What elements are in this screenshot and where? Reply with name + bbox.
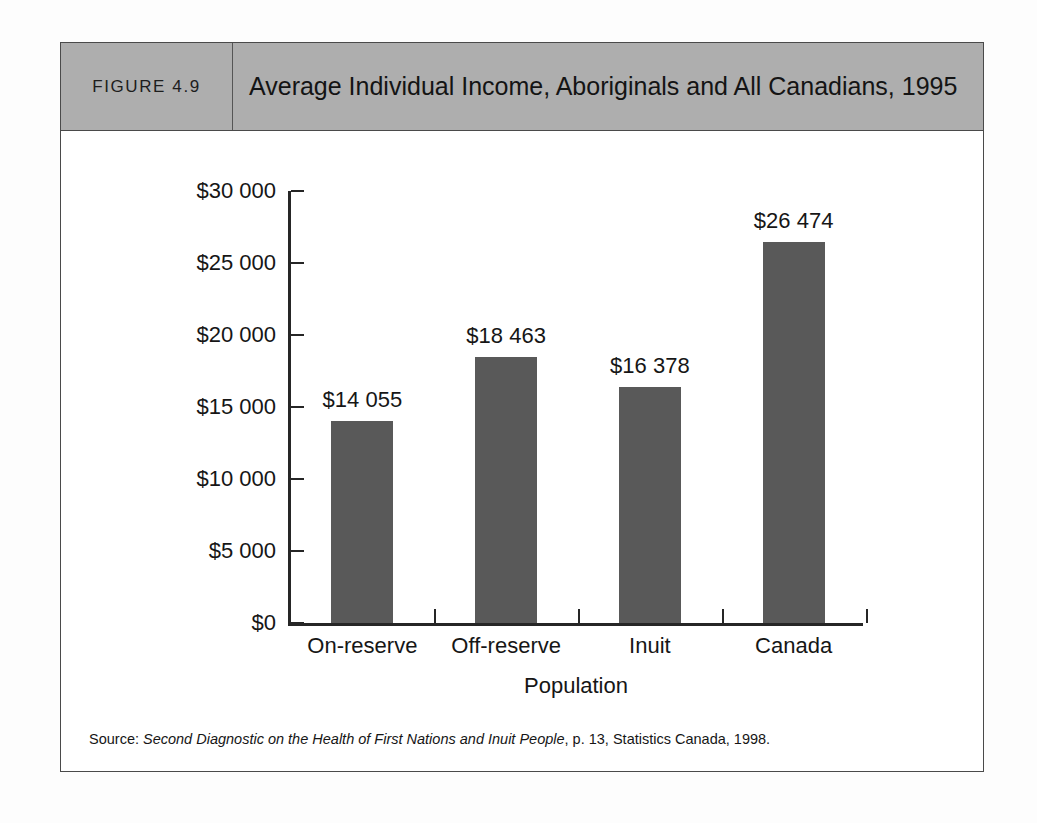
y-axis-tick-label: $15 000 bbox=[196, 394, 276, 420]
y-axis-tick-label: $5 000 bbox=[209, 538, 276, 564]
x-axis-category-label: Off-reserve bbox=[451, 633, 561, 659]
figure-title: Average Individual Income, Aboriginals a… bbox=[249, 70, 957, 103]
source-work-title: Second Diagnostic on the Health of First… bbox=[143, 731, 565, 747]
bar-group: $18 463Off-reserve bbox=[434, 191, 578, 623]
x-axis-category-label: Inuit bbox=[629, 633, 671, 659]
bar-value-label: $16 378 bbox=[610, 353, 690, 379]
y-axis-tick-label: $10 000 bbox=[196, 466, 276, 492]
y-axis-tick-label: $20 000 bbox=[196, 322, 276, 348]
source-suffix: , p. 13, Statistics Canada, 1998. bbox=[565, 731, 771, 747]
y-axis-tick-label: $25 000 bbox=[196, 250, 276, 276]
x-axis-category-label: Canada bbox=[755, 633, 832, 659]
source-prefix: Source: bbox=[89, 731, 143, 747]
x-axis-category-label: On-reserve bbox=[307, 633, 417, 659]
figure-box: FIGURE 4.9 Average Individual Income, Ab… bbox=[60, 42, 984, 772]
figure-number-label: FIGURE 4.9 bbox=[92, 77, 201, 97]
bar bbox=[475, 357, 537, 623]
figure-title-cell: Average Individual Income, Aboriginals a… bbox=[233, 43, 983, 130]
figure-number-cell: FIGURE 4.9 bbox=[61, 43, 233, 130]
y-axis-tick-label: $30 000 bbox=[196, 178, 276, 204]
bar-value-label: $26 474 bbox=[754, 208, 834, 234]
source-note: Source: Second Diagnostic on the Health … bbox=[89, 729, 959, 749]
chart-axes: $0$5 000$10 000$15 000$20 000$25 000$30 … bbox=[288, 191, 863, 623]
bar bbox=[331, 421, 393, 623]
x-axis-tick bbox=[866, 609, 868, 623]
bar bbox=[763, 242, 825, 623]
bar-value-label: $18 463 bbox=[466, 323, 546, 349]
x-axis-line bbox=[288, 623, 863, 626]
y-axis-tick-label: $0 bbox=[252, 610, 276, 636]
bar-value-label: $14 055 bbox=[323, 387, 403, 413]
figure-header: FIGURE 4.9 Average Individual Income, Ab… bbox=[61, 43, 983, 131]
bar-group: $14 055On-reserve bbox=[291, 191, 435, 623]
plot-region: $0$5 000$10 000$15 000$20 000$25 000$30 … bbox=[61, 131, 983, 773]
bar-series: $14 055On-reserve$18 463Off-reserve$16 3… bbox=[291, 191, 864, 623]
page-canvas: FIGURE 4.9 Average Individual Income, Ab… bbox=[0, 0, 1037, 823]
bar bbox=[619, 387, 681, 623]
bar-group: $26 474Canada bbox=[722, 191, 866, 623]
bar-group: $16 378Inuit bbox=[578, 191, 722, 623]
x-axis-title: Population bbox=[524, 673, 628, 699]
